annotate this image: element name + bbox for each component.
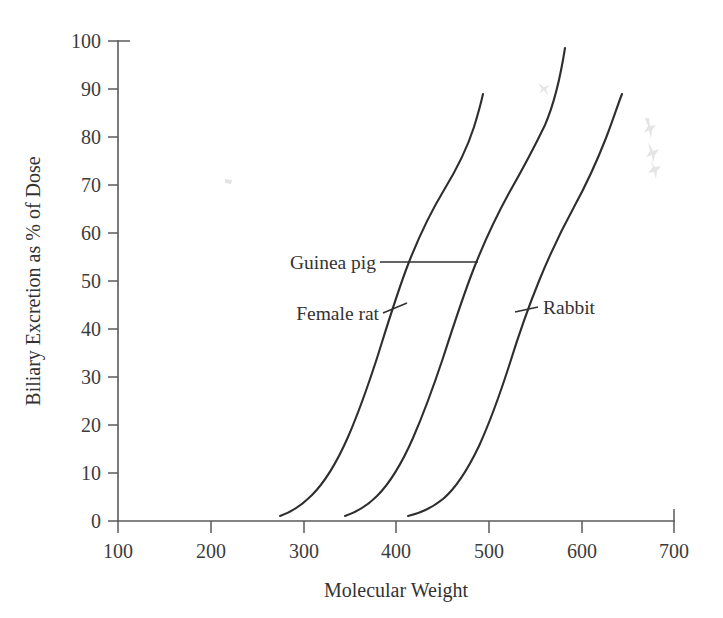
y-tick-label: 10: [81, 462, 101, 484]
x-tick-label: 100: [103, 540, 133, 562]
y-tick-label: 0: [91, 510, 101, 532]
x-tick-label: 500: [474, 540, 504, 562]
data-curves: [280, 48, 622, 516]
x-tick-label: 600: [567, 540, 597, 562]
series-label-guinea-pig: Guinea pig: [290, 252, 376, 273]
y-tick-label: 70: [81, 174, 101, 196]
x-tick-label: 400: [381, 540, 411, 562]
y-axis-title: Biliary Excretion as % of Dose: [22, 156, 45, 405]
chart-canvas: 0 10 20 30 40 50 60 70 80 90 100 100 200: [0, 0, 723, 618]
y-tick-label: 40: [81, 318, 101, 340]
series-label-rabbit: Rabbit: [543, 297, 596, 318]
y-tick-label: 100: [71, 30, 101, 52]
x-axis-tick-labels: 100 200 300 400 500 600 700: [103, 540, 689, 562]
y-tick-label: 90: [81, 78, 101, 100]
series-label-female-rat: Female rat: [296, 303, 379, 324]
y-tick-label: 30: [81, 366, 101, 388]
y-axis-tick-labels: 0 10 20 30 40 50 60 70 80 90 100: [71, 30, 101, 532]
y-tick-label: 60: [81, 222, 101, 244]
scan-artifacts: [225, 83, 661, 184]
y-tick-label: 80: [81, 126, 101, 148]
y-tick-label: 20: [81, 414, 101, 436]
axis-spines: [118, 41, 674, 521]
curve-guinea-pig: [345, 48, 565, 516]
biliary-excretion-chart: 0 10 20 30 40 50 60 70 80 90 100 100 200: [0, 0, 723, 618]
series-leader-lines: [380, 262, 538, 313]
x-tick-label: 300: [289, 540, 319, 562]
x-tick-label: 700: [659, 540, 689, 562]
x-tick-label: 200: [196, 540, 226, 562]
y-axis-ticks: [108, 41, 118, 521]
x-axis-ticks: [118, 521, 674, 533]
y-tick-label: 50: [81, 270, 101, 292]
x-axis-title: Molecular Weight: [324, 579, 469, 602]
